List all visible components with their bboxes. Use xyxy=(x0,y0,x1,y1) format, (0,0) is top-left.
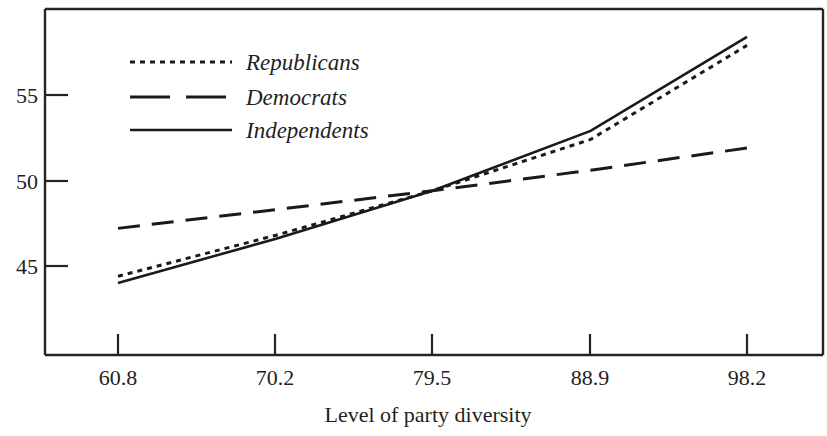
chart-figure: 55 50 45 60.8 70.2 79.5 88.9 98.2 Level … xyxy=(0,0,827,436)
legend-label-democrats: Democrats xyxy=(245,85,347,110)
x-tick-label-0: 60.8 xyxy=(99,365,138,390)
legend-label-independents: Independents xyxy=(245,118,369,143)
x-tick-label-2: 79.5 xyxy=(413,365,452,390)
x-tick-label-4: 98.2 xyxy=(728,365,767,390)
x-tick-label-1: 70.2 xyxy=(256,365,295,390)
y-tick-label-2: 45 xyxy=(16,254,38,279)
x-axis-title: Level of party diversity xyxy=(324,402,531,427)
line-chart: 55 50 45 60.8 70.2 79.5 88.9 98.2 Level … xyxy=(0,0,827,436)
x-tick-label-3: 88.9 xyxy=(571,365,610,390)
legend-label-republicans: Republicans xyxy=(245,50,360,75)
y-tick-label-1: 50 xyxy=(16,169,38,194)
y-tick-label-0: 55 xyxy=(16,83,38,108)
